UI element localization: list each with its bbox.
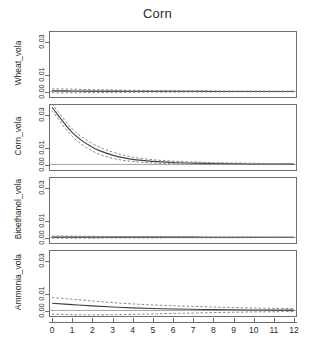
x-tick-mark xyxy=(72,318,73,322)
series-upper_ci xyxy=(52,297,294,308)
x-tick-mark xyxy=(173,318,174,322)
x-tick-label: 6 xyxy=(166,325,180,335)
panel-corn-vola xyxy=(49,104,297,171)
y-tick-mark xyxy=(45,115,49,116)
y-axis-label-ammonia-vola: Ammonia_vola xyxy=(13,247,23,317)
y-tick-mark xyxy=(45,221,49,222)
y-tick-label: 0.01 xyxy=(37,281,46,307)
x-tick-mark xyxy=(274,318,275,322)
panel-bioethanol-vola xyxy=(49,177,297,244)
x-tick-mark xyxy=(254,318,255,322)
series-response xyxy=(52,303,294,310)
y-tick-mark xyxy=(45,75,49,76)
page-title: Corn xyxy=(0,6,315,21)
x-tick-label: 0 xyxy=(45,325,59,335)
x-axis-line xyxy=(49,322,297,323)
x-tick-label: 5 xyxy=(146,325,160,335)
y-tick-mark xyxy=(45,261,49,262)
x-tick-mark xyxy=(294,318,295,322)
panel-plot-area xyxy=(49,177,297,244)
y-tick-label: 0.03 xyxy=(37,29,46,55)
y-axis-label-corn-vola: Corn_vola xyxy=(13,106,23,166)
x-tick-label: 12 xyxy=(287,325,301,335)
panel-plot-area xyxy=(49,104,297,171)
y-tick-label: 0.01 xyxy=(37,208,46,234)
x-tick-mark xyxy=(133,318,134,322)
x-tick-mark xyxy=(193,318,194,322)
x-tick-label: 11 xyxy=(267,325,281,335)
x-tick-mark xyxy=(153,318,154,322)
y-tick-label: 0.03 xyxy=(37,102,46,128)
x-tick-mark xyxy=(213,318,214,322)
x-tick-label: 4 xyxy=(126,325,140,335)
x-tick-mark xyxy=(52,318,53,322)
x-tick-label: 10 xyxy=(247,325,261,335)
x-tick-mark xyxy=(92,318,93,322)
y-tick-label: 0.03 xyxy=(37,175,46,201)
panel-plot-area xyxy=(49,31,297,98)
panel-plot-area xyxy=(49,250,297,317)
x-tick-mark xyxy=(113,318,114,322)
y-tick-mark xyxy=(45,92,49,93)
x-tick-label: 2 xyxy=(85,325,99,335)
y-tick-mark xyxy=(45,188,49,189)
series-response xyxy=(52,91,294,92)
x-tick-label: 3 xyxy=(106,325,120,335)
y-tick-label: 0.01 xyxy=(37,135,46,161)
series-upper_ci xyxy=(52,104,294,164)
y-tick-label: 0.01 xyxy=(37,62,46,88)
y-tick-label: 0.03 xyxy=(37,248,46,274)
irf-figure: Corn Wheat_vola Corn_vola Bioethanol_vol… xyxy=(0,0,315,356)
y-axis-label-bioethanol-vola: Bioethanol_vola xyxy=(13,171,23,247)
x-tick-label: 9 xyxy=(227,325,241,335)
panel-ammonia-vola xyxy=(49,250,297,317)
y-tick-mark xyxy=(45,148,49,149)
y-tick-mark xyxy=(45,294,49,295)
x-tick-label: 8 xyxy=(206,325,220,335)
y-tick-mark xyxy=(45,165,49,166)
series-lower_ci xyxy=(52,311,294,314)
y-tick-mark xyxy=(45,311,49,312)
x-tick-label: 1 xyxy=(65,325,79,335)
series-response xyxy=(52,107,294,164)
x-tick-label: 7 xyxy=(186,325,200,335)
panel-wheat-vola xyxy=(49,31,297,98)
x-tick-mark xyxy=(234,318,235,322)
series-lower_ci xyxy=(52,111,294,165)
y-tick-mark xyxy=(45,238,49,239)
y-tick-mark xyxy=(45,42,49,43)
y-axis-label-wheat-vola: Wheat_vola xyxy=(13,33,23,93)
